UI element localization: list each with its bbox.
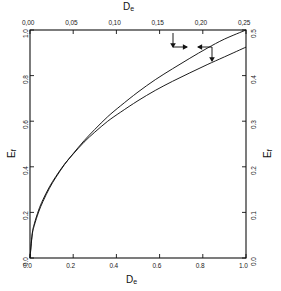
tick-label-left: 0.2	[22, 212, 29, 221]
tick-label-right: 0.4	[250, 75, 257, 84]
chart-figure: De De Ef Ef 0,000,050,100,150,200,25 0.0…	[0, 0, 281, 291]
tick-label-top: 0,25	[238, 19, 250, 26]
axis-title-left-text: E	[6, 151, 17, 158]
ticks-bottom	[30, 254, 246, 258]
axis-title-bottom: De	[126, 274, 137, 285]
tick-label-bottom: 0.2	[66, 262, 75, 269]
data-curve-upper	[30, 47, 246, 258]
annotation-arrow-right	[197, 44, 215, 62]
tick-label-left: 0.6	[22, 120, 29, 129]
axis-title-left-sub: f	[10, 149, 17, 151]
tick-label-top: 0,05	[65, 19, 77, 26]
axis-title-right: Ef	[262, 149, 273, 158]
ticks-left	[30, 30, 34, 258]
tick-label-top: 0,10	[108, 19, 120, 26]
ticks-right	[242, 30, 246, 258]
annotation-arrow-left	[170, 33, 188, 50]
tick-label-left: 1.0	[22, 29, 29, 38]
axis-title-left: Ef	[6, 149, 17, 158]
axis-title-top: De	[123, 1, 134, 12]
plot-frame	[30, 30, 246, 258]
tick-label-bottom: 1.0	[239, 262, 248, 269]
axis-title-top-sub: e	[130, 5, 134, 12]
tick-label-right: 0.3	[250, 120, 257, 129]
tick-label-right: 0.0	[250, 257, 257, 266]
plot-canvas	[0, 0, 281, 291]
tick-label-left: 0.8	[22, 75, 29, 84]
tick-label-top: 0,15	[152, 19, 164, 26]
data-curve-lower	[30, 30, 246, 258]
axis-title-right-sub: f	[266, 149, 273, 151]
tick-label-left: 0.4	[22, 166, 29, 175]
tick-label-left: 0.0	[22, 257, 29, 266]
tick-label-right: 0.2	[250, 166, 257, 175]
tick-label-top: 0,00	[22, 19, 34, 26]
tick-label-bottom: 0.4	[109, 262, 118, 269]
tick-label-bottom: 0.6	[153, 262, 162, 269]
axis-title-right-text: E	[262, 151, 273, 158]
ticks-top	[30, 30, 246, 34]
axis-title-bottom-sub: e	[133, 278, 137, 285]
tick-label-bottom: 0.8	[196, 262, 205, 269]
tick-label-top: 0,20	[195, 19, 207, 26]
tick-label-right: 0.1	[250, 212, 257, 221]
tick-label-right: 0.5	[250, 29, 257, 38]
